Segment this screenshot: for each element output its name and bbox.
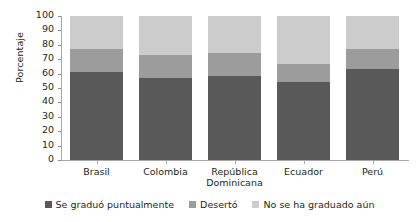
- stacked-bar-chart: Porcentaje 0102030405060708090100 Brasil…: [0, 0, 419, 222]
- y-axis-tick-label: 10: [42, 139, 54, 150]
- x-axis-tick-mark: [304, 160, 305, 164]
- bar-segment[interactable]: [346, 16, 399, 49]
- y-axis-ticks: 0102030405060708090100: [0, 16, 62, 160]
- y-axis-tick-label: 40: [42, 95, 54, 106]
- chart-legend: Se graduó puntualmenteDesertóNo se ha gr…: [0, 199, 419, 210]
- bar-segment[interactable]: [139, 16, 192, 55]
- y-axis-tick-label: 80: [42, 38, 54, 49]
- legend-item[interactable]: Desertó: [189, 199, 237, 210]
- bar-group[interactable]: [277, 16, 330, 160]
- bar-group[interactable]: [139, 16, 192, 160]
- legend-label: No se ha graduado aún: [263, 199, 374, 210]
- legend-item[interactable]: Se graduó puntualmente: [45, 199, 175, 210]
- bar-segment[interactable]: [70, 16, 123, 49]
- bar-group[interactable]: [70, 16, 123, 160]
- x-axis-tick-mark: [373, 160, 374, 164]
- legend-swatch-icon: [252, 201, 259, 208]
- x-axis-ticks: [62, 160, 407, 164]
- y-axis-tick-label: 30: [42, 110, 54, 121]
- bar-segment[interactable]: [277, 16, 330, 64]
- y-axis-tick-label: 50: [42, 81, 54, 92]
- bar-segment[interactable]: [139, 55, 192, 78]
- bar-segment[interactable]: [346, 49, 399, 69]
- bar-segment[interactable]: [277, 82, 330, 160]
- y-axis-tick-label: 60: [42, 67, 54, 78]
- x-axis-label: Brasil: [62, 166, 131, 188]
- legend-swatch-icon: [45, 201, 52, 208]
- x-axis-tick-mark: [235, 160, 236, 164]
- legend-label: Desertó: [200, 199, 237, 210]
- x-axis-label: Colombia: [131, 166, 200, 188]
- x-axis-label-line: Perú: [338, 166, 407, 177]
- x-axis-label: RepúblicaDominicana: [200, 166, 269, 188]
- x-axis-label-line: Brasil: [62, 166, 131, 177]
- bar-segment[interactable]: [208, 76, 261, 160]
- legend-label: Se graduó puntualmente: [56, 199, 175, 210]
- x-axis-label: Ecuador: [269, 166, 338, 188]
- y-axis-tick-label: 90: [42, 23, 54, 34]
- x-axis-label-line: Dominicana: [200, 177, 269, 188]
- x-axis-label-line: Ecuador: [269, 166, 338, 177]
- bar-segment[interactable]: [208, 53, 261, 76]
- x-axis-tick-mark: [166, 160, 167, 164]
- x-axis-label-line: Colombia: [131, 166, 200, 177]
- bars-container: [62, 16, 407, 160]
- bar-segment[interactable]: [70, 72, 123, 160]
- bar-group[interactable]: [346, 16, 399, 160]
- x-axis-tick-mark: [97, 160, 98, 164]
- y-axis-tick-label: 0: [48, 153, 54, 164]
- bar-segment[interactable]: [208, 16, 261, 53]
- bar-segment[interactable]: [346, 69, 399, 160]
- legend-item[interactable]: No se ha graduado aún: [252, 199, 374, 210]
- x-axis-label: Perú: [338, 166, 407, 188]
- bar-group[interactable]: [208, 16, 261, 160]
- y-axis-tick-label: 20: [42, 124, 54, 135]
- bar-segment[interactable]: [139, 78, 192, 160]
- x-axis-labels: BrasilColombiaRepúblicaDominicanaEcuador…: [62, 166, 407, 188]
- y-axis-tick-label: 70: [42, 52, 54, 63]
- y-axis-tick-label: 100: [36, 9, 54, 20]
- bar-segment[interactable]: [70, 49, 123, 72]
- legend-swatch-icon: [189, 201, 196, 208]
- x-axis-label-line: República: [200, 166, 269, 177]
- bar-segment[interactable]: [277, 64, 330, 83]
